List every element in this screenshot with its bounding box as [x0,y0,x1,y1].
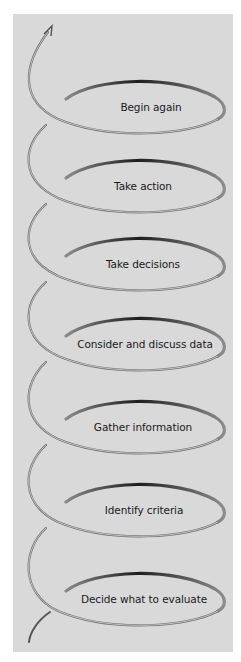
ribbon-lower-arc [29,125,218,212]
step-label: Consider and discuss data [77,338,213,350]
spiral-ribbon [0,0,241,662]
ribbon-tail [29,612,50,642]
step-label: Begin again [120,101,181,113]
ribbon-lower-arc [29,282,218,370]
step-label: Take decisions [106,258,180,270]
step-label: Take action [114,180,172,192]
ribbon-lower-arc [29,204,218,290]
step-label: Decide what to evaluate [81,593,207,605]
step-label: Gather information [94,421,192,433]
step-label: Identify criteria [105,504,184,516]
